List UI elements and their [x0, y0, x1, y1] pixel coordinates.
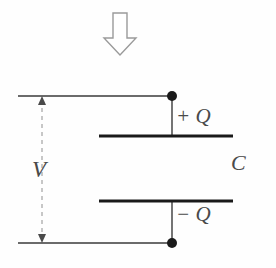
voltage-arrowhead-up-icon: [38, 96, 46, 105]
capacitance-label: C: [231, 152, 246, 174]
circuit-diagram-canvas: [0, 0, 276, 268]
negative-charge-label: − Q: [176, 204, 211, 225]
positive-charge-label: + Q: [176, 106, 211, 127]
voltage-label: V: [32, 158, 46, 181]
top-circuit-node-dot-icon: [167, 91, 177, 101]
bottom-circuit-node-dot-icon: [167, 238, 177, 248]
down-arrow-outline-icon: [104, 13, 136, 55]
voltage-arrowhead-down-icon: [38, 234, 46, 243]
capacitor-circuit-figure: + Q − Q C V: [0, 0, 276, 268]
